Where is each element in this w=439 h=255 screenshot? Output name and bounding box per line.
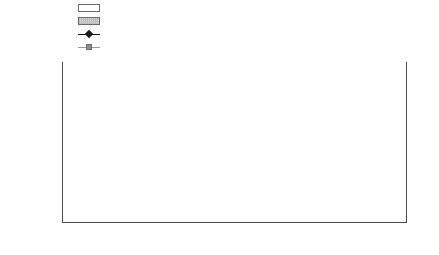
white-bar-swatch-icon	[78, 4, 100, 12]
legend-item-2	[78, 28, 338, 40]
legend-item-3	[78, 41, 338, 53]
chart-legend	[78, 2, 338, 54]
legend-item-1	[78, 15, 338, 27]
chart-figure	[0, 0, 439, 255]
black-diamond-line-icon	[78, 30, 100, 38]
legend-item-0	[78, 2, 338, 14]
gray-square-line-icon	[78, 43, 100, 51]
hatched-bar-swatch-icon	[78, 17, 100, 25]
line-layer	[62, 62, 405, 222]
